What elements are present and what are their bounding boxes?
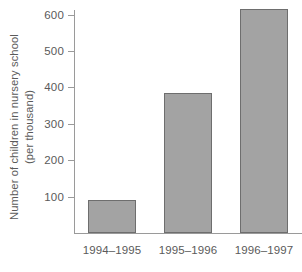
- y-axis-tick-label: 600: [44, 9, 64, 21]
- bar-1: [88, 200, 136, 233]
- y-axis-tick: [68, 51, 75, 52]
- y-axis-tick: [68, 197, 75, 198]
- y-axis-tick-label: 500: [44, 45, 64, 57]
- plot-area: [74, 0, 302, 236]
- y-axis-tick-label: 300: [44, 118, 64, 130]
- x-axis-label-3: 1996–1997: [226, 243, 302, 257]
- y-axis-tick-label: 100: [44, 191, 64, 203]
- y-axis-tick: [68, 15, 75, 16]
- y-axis-tick-label: 400: [44, 81, 64, 93]
- bar-3: [240, 9, 288, 233]
- x-axis-label-1: 1994–1995: [74, 243, 150, 257]
- y-axis-tick-labels: 100200300400500600: [0, 0, 74, 236]
- x-axis-line: [74, 233, 302, 234]
- x-axis-label-2: 1995–1996: [150, 243, 226, 257]
- bar-2: [164, 93, 212, 233]
- y-axis-line: [74, 10, 75, 234]
- bar-chart: Number of children in nursery school (pe…: [0, 0, 302, 272]
- x-axis-category-labels: 1994–19951995–19961996–1997: [74, 243, 302, 263]
- y-axis-tick: [68, 87, 75, 88]
- y-axis-tick-label: 200: [44, 154, 64, 166]
- y-axis-tick: [68, 160, 75, 161]
- y-axis-tick: [68, 124, 75, 125]
